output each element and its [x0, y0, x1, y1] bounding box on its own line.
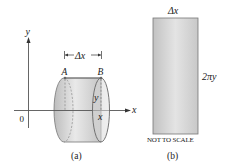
- point-b-label: B: [98, 67, 104, 77]
- origin-label: 0: [20, 114, 25, 124]
- figure-a: y 0 x Δx A B y x (a): [14, 26, 137, 162]
- y-axis-label: y: [25, 26, 31, 37]
- point-a-label: A: [61, 67, 68, 77]
- y-axis-arrow-icon: [27, 37, 31, 43]
- rect-height-label: 2πy: [202, 71, 217, 82]
- point-a-dot: [64, 77, 67, 80]
- caption-a: (a): [71, 151, 82, 162]
- surface-area-diagram: y 0 x Δx A B y x (a) Δx 2πy NOT TO SCALE…: [0, 0, 232, 166]
- unrolled-rectangle: [153, 18, 198, 134]
- delta-x-label: Δx: [74, 50, 86, 61]
- x-axis-label: x: [131, 104, 137, 115]
- radius-y-label: y: [93, 92, 99, 103]
- rect-width-label: Δx: [167, 5, 179, 16]
- point-b-dot: [100, 77, 103, 80]
- caption-b: (b): [167, 151, 178, 162]
- figure-b: Δx 2πy NOT TO SCALE (b): [147, 5, 217, 162]
- not-to-scale-note: NOT TO SCALE: [147, 136, 194, 144]
- position-x-label: x: [97, 111, 103, 122]
- x-axis-arrow-icon: [125, 109, 131, 113]
